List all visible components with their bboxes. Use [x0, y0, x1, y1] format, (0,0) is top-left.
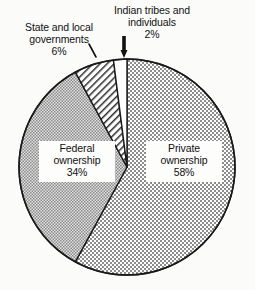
- leader-arrowhead-indian-tribes: [121, 50, 128, 58]
- slice-label-state-local-line1: State and local: [25, 21, 93, 33]
- slice-label-private-line2: ownership: [161, 154, 208, 166]
- pie-chart: State and local governments 6% Indian tr…: [0, 0, 255, 290]
- slice-label-federal-line2: ownership: [54, 154, 101, 166]
- slice-label-indian-tribes: Indian tribes and individuals 2%: [96, 5, 208, 40]
- slice-label-indian-tribes-line1: Indian tribes and: [114, 4, 190, 16]
- slice-label-private: Private ownership 58%: [146, 141, 222, 182]
- slice-label-federal-line1: Federal: [60, 142, 95, 154]
- slice-value-indian-tribes: 2%: [96, 29, 208, 41]
- slice-label-federal: Federal ownership 34%: [39, 141, 115, 182]
- slice-label-state-local-line2: governments: [29, 33, 89, 45]
- slice-label-private-line1: Private: [168, 142, 200, 154]
- slice-value-state-local: 6%: [5, 46, 113, 58]
- slice-value-private: 58%: [150, 167, 218, 179]
- slice-value-federal: 34%: [43, 167, 111, 179]
- slice-label-indian-tribes-line2: individuals: [128, 16, 176, 28]
